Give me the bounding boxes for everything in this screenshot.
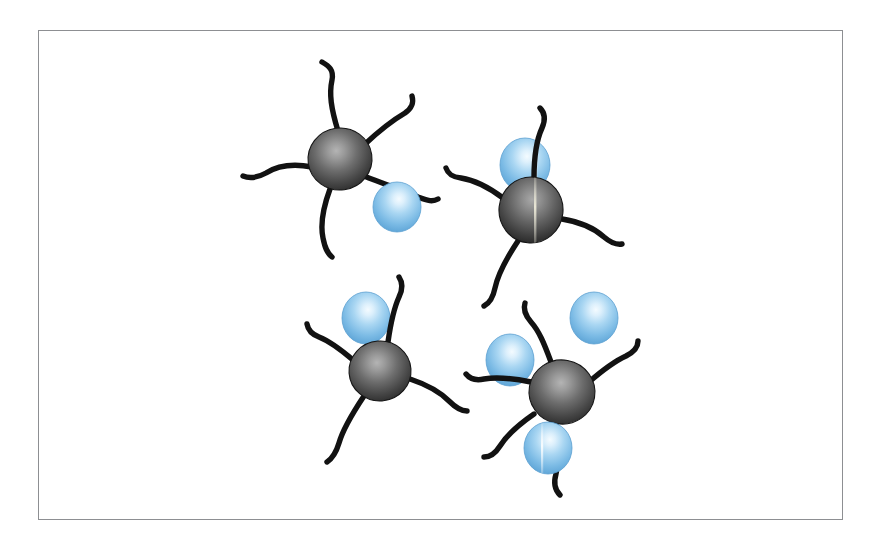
blue-sphere-group-1 — [373, 182, 421, 232]
dark-particle-core — [496, 174, 567, 246]
tentacle-arm-icon — [322, 62, 338, 131]
tentacle-arm-icon — [243, 165, 312, 177]
tentacle-arm-icon — [589, 341, 638, 382]
blue-sphere — [342, 292, 390, 344]
blue-sphere — [524, 422, 572, 474]
tentacle-arm-icon — [327, 396, 364, 462]
tentacle-arm-icon — [364, 96, 413, 145]
tentacle-arm-icon — [484, 241, 518, 306]
sphere-seam-artifact — [534, 177, 536, 243]
figure-root: Four dark grey spherical particles, each… — [0, 0, 879, 552]
tentacle-arm-icon — [322, 189, 332, 257]
blue-sphere-group-5 — [524, 422, 572, 474]
diagram-scene — [0, 0, 879, 552]
tentacle-arm-icon — [562, 219, 622, 244]
blue-sphere-group-free — [570, 292, 618, 344]
tentacle-arm-icon — [410, 379, 467, 411]
dark-particle-core — [524, 355, 600, 429]
dark-particle-core — [347, 339, 413, 403]
particle-group-2 — [446, 108, 622, 306]
blue-sphere — [373, 182, 421, 232]
tentacle-arm-icon — [446, 168, 503, 198]
blue-sphere-free — [570, 292, 618, 344]
sphere-seam-artifact — [541, 423, 543, 474]
blue-sphere-group-3 — [342, 292, 390, 344]
dark-particle-core — [304, 124, 376, 194]
tentacle-arm-icon — [388, 277, 402, 342]
